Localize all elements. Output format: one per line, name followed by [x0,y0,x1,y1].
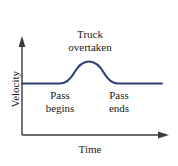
velocity-curve [22,62,162,84]
x-axis-label: Time [60,143,120,156]
chart-title-line-2: overtaken [50,41,130,54]
annotation-pass-ends-line-2: ends [96,102,142,115]
x-axis-arrow-icon [158,132,169,139]
annotation-pass-begins-line-1: Pass [36,89,84,102]
chart-title: Truck overtaken [50,28,130,53]
velocity-time-figure: Truck overtaken Pass begins Pass ends Ti… [0,0,178,166]
annotation-pass-begins: Pass begins [36,89,84,114]
annotation-pass-ends: Pass ends [96,89,142,114]
x-axis [22,132,169,139]
annotation-pass-begins-line-2: begins [36,102,84,115]
chart-title-line-1: Truck [50,28,130,41]
plot-canvas [0,0,178,166]
annotation-pass-ends-line-1: Pass [96,89,142,102]
y-axis-arrow-icon [19,36,26,47]
y-axis-label: Velocity [9,59,22,119]
